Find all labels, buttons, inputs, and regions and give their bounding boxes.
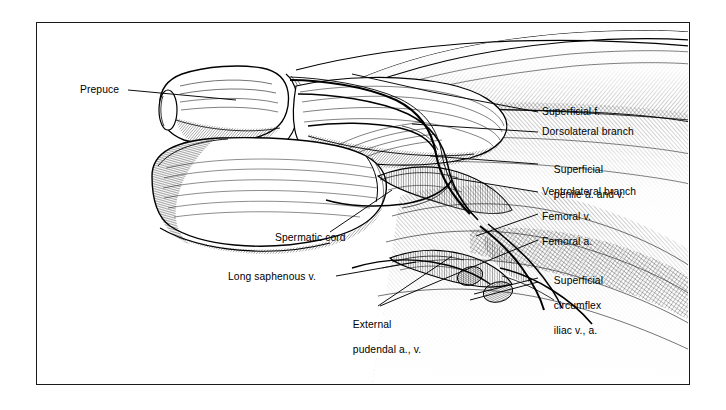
label-ventrolateral-branch: Ventrolateral branch: [542, 186, 636, 199]
label-femoral-v: Femoral v.: [542, 211, 591, 224]
label-external-pudendal-line2: pudendal a., v.: [353, 344, 421, 355]
label-superficial-penile: Superficial penile a. and v.: [542, 151, 625, 214]
label-superficial-circumflex-iliac: Superficial circumflex iliac v., a.: [542, 262, 603, 350]
label-external-pudendal-line1: External: [353, 319, 392, 330]
label-circumflex-line3: iliac v., a.: [554, 325, 597, 336]
prepuce: [159, 66, 289, 146]
label-superficial-penile-line1: Superficial: [554, 164, 603, 175]
figure-page: Prepuce Spermatic cord Long saphenous v.…: [0, 0, 726, 410]
label-femoral-a: Femoral a.: [542, 236, 592, 249]
label-dorsolateral-branch: Dorsolateral branch: [542, 126, 634, 139]
label-long-saphenous-v: Long saphenous v.: [228, 271, 316, 284]
label-external-pudendal: External pudendal a., v.: [341, 306, 421, 369]
label-prepuce: Prepuce: [80, 84, 119, 97]
label-circumflex-line1: Superficial: [554, 275, 603, 286]
label-superficial-f: Superficial f.: [542, 106, 600, 119]
label-circumflex-line2: circumflex: [554, 300, 601, 311]
scrotum: [152, 138, 386, 254]
label-spermatic-cord: Spermatic cord: [275, 232, 346, 245]
